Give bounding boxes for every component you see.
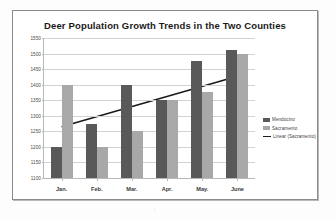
y-axis-tick [42, 178, 44, 179]
x-axis-label: May. [185, 186, 220, 192]
bar-sacramento-0[interactable] [62, 85, 73, 178]
bar-group: Feb. [79, 38, 114, 178]
bar-sacramento-3[interactable] [167, 100, 178, 178]
bar-sacramento-2[interactable] [132, 131, 143, 178]
x-axis-tick [132, 178, 133, 181]
y-axis-label: 1250 [30, 129, 41, 134]
bar-mendocino-3[interactable] [156, 100, 167, 178]
y-axis-label: 1400 [30, 82, 41, 87]
legend-line-marker-icon [263, 136, 271, 137]
legend-swatch-icon [263, 118, 270, 122]
bars-layer: Jan.Feb.Mar.Apr.May.June [44, 38, 255, 178]
x-axis-label: Jan. [44, 186, 79, 192]
chart-title: Deer Population Growth Trends in the Two… [13, 20, 317, 31]
bar-group: Apr. [150, 38, 185, 178]
x-axis-tick [62, 178, 63, 181]
y-axis-label: 1150 [31, 160, 41, 165]
legend-label: Linear (Sacramento) [273, 134, 316, 139]
y-axis-label: 1500 [30, 51, 41, 56]
y-axis-label: 1300 [30, 113, 41, 118]
legend-item-mendocino[interactable]: Mendocino [263, 117, 325, 122]
y-axis-label: 1100 [31, 176, 41, 181]
bar-group: Jan. [44, 38, 79, 178]
x-axis-label: Apr. [150, 186, 185, 192]
chart-container: Deer Population Growth Trends in the Two… [12, 10, 318, 200]
x-axis-label: Mar. [114, 186, 149, 192]
bar-mendocino-5[interactable] [226, 50, 237, 178]
x-axis-tick [202, 178, 203, 181]
bar-mendocino-2[interactable] [121, 85, 132, 178]
y-axis-label: 1200 [30, 144, 41, 149]
legend-item-linear-sacramento[interactable]: Linear (Sacramento) [263, 134, 325, 139]
y-axis-label: 1550 [30, 36, 41, 41]
plot-area: 1100115012001250130013501400145015001550… [43, 38, 255, 179]
chart-legend: MendocinoSacramentoLinear (Sacramento) [263, 117, 325, 139]
x-axis-tick [167, 178, 168, 181]
y-axis-label: 1350 [30, 98, 41, 103]
bar-sacramento-1[interactable] [97, 147, 108, 178]
x-axis-label: Feb. [79, 186, 114, 192]
bar-sacramento-4[interactable] [202, 92, 213, 178]
bar-mendocino-1[interactable] [86, 124, 97, 178]
y-axis-label: 1450 [30, 67, 41, 72]
x-axis-tick [97, 178, 98, 181]
legend-swatch-icon [263, 126, 270, 130]
legend-item-sacramento[interactable]: Sacramento [263, 126, 325, 131]
bar-group: May. [185, 38, 220, 178]
bar-group: Mar. [114, 38, 149, 178]
legend-label: Mendocino [272, 117, 295, 122]
bar-sacramento-5[interactable] [237, 54, 248, 178]
bar-mendocino-4[interactable] [191, 61, 202, 178]
legend-label: Sacramento [272, 126, 297, 131]
x-axis-label: June [220, 186, 255, 192]
bar-mendocino-0[interactable] [51, 147, 62, 178]
x-axis-tick [237, 178, 238, 181]
bar-group: June [220, 38, 255, 178]
